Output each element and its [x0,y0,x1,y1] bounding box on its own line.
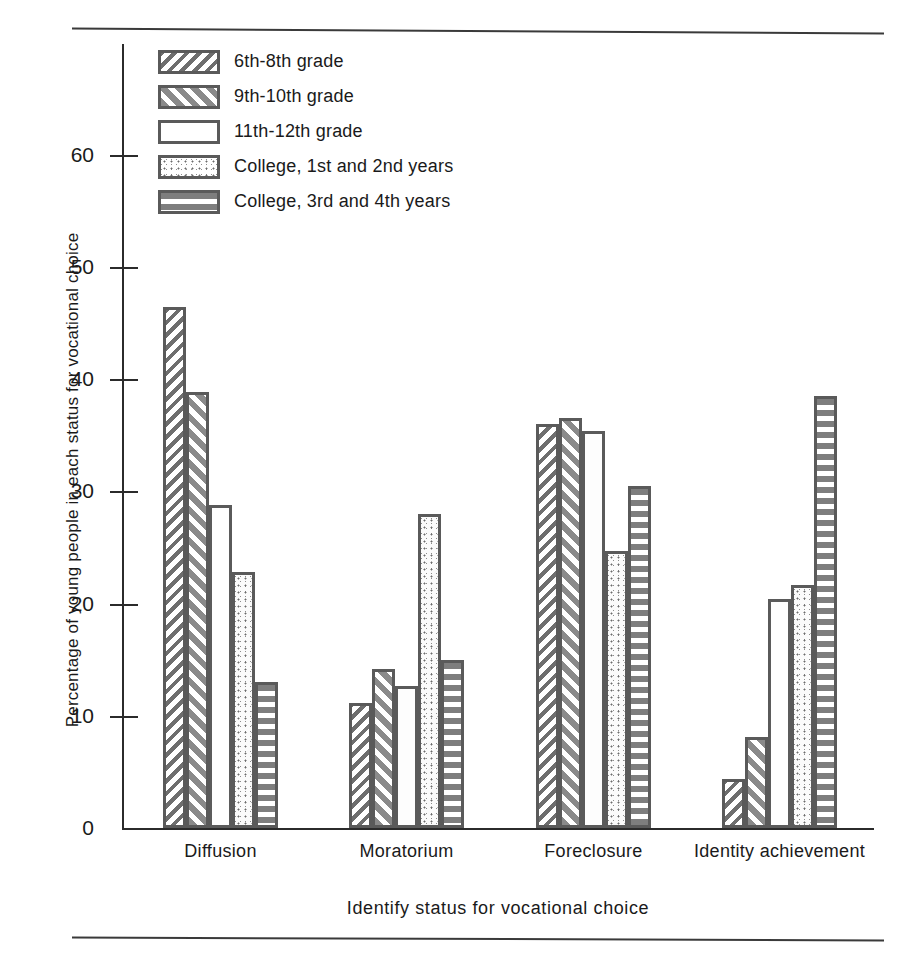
legend-label: 9th-10th grade [234,86,354,107]
bar-diffusion-series-3 [209,505,232,828]
legend-item: 6th-8th grade [158,44,478,79]
x-group-label-foreclosure: Foreclosure [499,840,689,863]
x-axis-title: Identify status for vocational choice [122,898,874,919]
bar-diffusion-series-5 [255,682,278,828]
bar-foreclosure-series-5 [628,486,651,828]
bar-diffusion-series-1 [163,307,186,828]
legend-item: College, 1st and 2nd years [158,149,478,184]
y-axis-tick [110,379,138,381]
legend-label: College, 3rd and 4th years [234,191,450,212]
bar-moratorium-series-1 [349,703,372,828]
y-axis-tick [110,716,138,718]
x-group-label-moratorium: Moratorium [312,840,502,863]
y-axis-line [122,44,124,830]
bar-foreclosure-series-1 [536,424,559,828]
bar-foreclosure-series-4 [605,551,628,828]
legend-swatch-plain-white-icon [158,120,220,144]
bar-identity-achievement-series-4 [791,585,814,828]
legend-item: 11th-12th grade [158,114,478,149]
y-axis-tick [110,491,138,493]
bar-moratorium-series-4 [418,514,441,828]
bar-identity-achievement-series-2 [745,737,768,828]
bar-diffusion-series-2 [186,392,209,828]
y-tick-label-0: 0 [48,816,94,840]
x-axis-line [122,828,874,830]
legend-swatch-diagonal-stripes-white-icon [158,50,220,74]
legend-item: College, 3rd and 4th years [158,184,478,219]
legend-label: 11th-12th grade [234,121,363,142]
bar-identity-achievement-series-1 [722,779,745,828]
bar-moratorium-series-5 [441,660,464,828]
bar-foreclosure-series-3 [582,431,605,828]
figure-container: 0 102030405060DiffusionMoratoriumForeclo… [0,0,900,973]
legend-swatch-horizontal-stripes-icon [158,190,220,214]
x-group-label-identity-achievement: Identity achievement [685,840,875,863]
bar-moratorium-series-2 [372,669,395,828]
y-axis-tick [110,604,138,606]
legend-label: College, 1st and 2nd years [234,156,453,177]
bar-foreclosure-series-2 [559,418,582,828]
x-group-label-diffusion: Diffusion [126,840,316,863]
legend-label: 6th-8th grade [234,51,344,72]
legend-item: 9th-10th grade [158,79,478,114]
bar-moratorium-series-3 [395,686,418,828]
legend-swatch-stipple-icon [158,155,220,179]
y-axis-tick [110,267,138,269]
bar-identity-achievement-series-5 [814,396,837,828]
y-axis-title: Percentage of young people in each statu… [63,160,83,800]
y-axis-tick [110,155,138,157]
bar-diffusion-series-4 [232,572,255,828]
legend: 6th-8th grade9th-10th grade11th-12th gra… [158,44,478,219]
legend-swatch-diagonal-stripes-gray-icon [158,85,220,109]
bar-identity-achievement-series-3 [768,599,791,828]
